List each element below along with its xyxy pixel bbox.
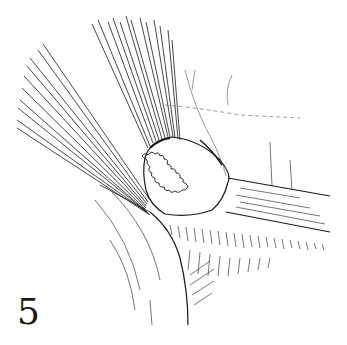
tube bbox=[226, 142, 330, 232]
wound-line bbox=[142, 152, 188, 192]
upper-tissue bbox=[165, 70, 300, 176]
left-suture-fan bbox=[17, 44, 150, 215]
hatching bbox=[170, 225, 324, 305]
figure-number-label: 5 bbox=[17, 294, 40, 330]
upper-suture-fan bbox=[92, 16, 180, 148]
lower-boundary bbox=[95, 190, 188, 325]
surgical-illustration bbox=[0, 0, 347, 345]
